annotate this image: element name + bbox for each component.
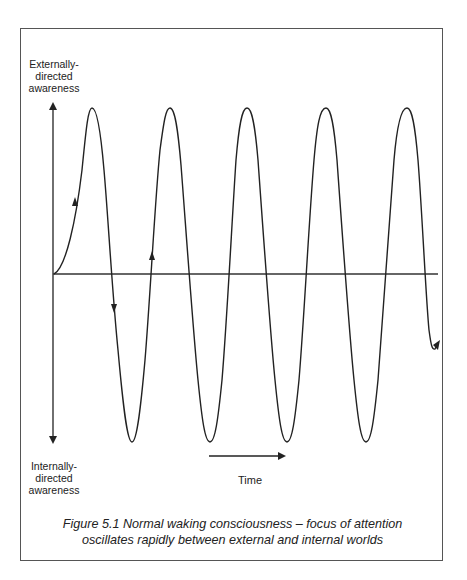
- label-line: Internally-: [22, 460, 86, 472]
- label-line: directed: [22, 70, 86, 82]
- label-line: Externally-: [22, 58, 86, 70]
- down-arrow-marker: [111, 304, 117, 313]
- label-line: awareness: [22, 484, 86, 496]
- caption-line-1: Figure 5.1 Normal waking consciousness –…: [30, 516, 435, 532]
- oscillation-curve: [54, 108, 437, 442]
- label-line: directed: [22, 472, 86, 484]
- up-arrow-marker-2: [149, 251, 155, 260]
- time-label: Time: [230, 474, 270, 486]
- caption-line-2: oscillates rapidly between external and …: [30, 532, 435, 548]
- internally-directed-label: Internally- directed awareness: [22, 460, 86, 496]
- label-line: awareness: [22, 82, 86, 94]
- externally-directed-label: Externally- directed awareness: [22, 58, 86, 94]
- figure-caption: Figure 5.1 Normal waking consciousness –…: [30, 516, 435, 548]
